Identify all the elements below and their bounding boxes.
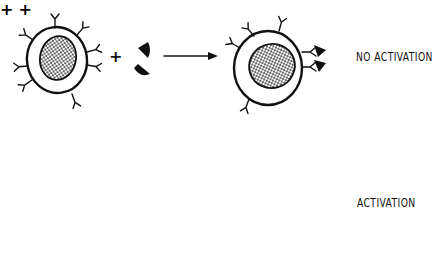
plus-sign: + — [109, 47, 122, 66]
antigen-fragments-icon — [134, 42, 150, 75]
activation-label: ACTIVATION — [357, 196, 416, 210]
arrow-icon — [164, 52, 218, 60]
no-activation-label: NO ACTIVATION — [356, 50, 433, 64]
cell-with-bound-antigens — [226, 16, 326, 113]
row-no-activation: + — [14, 14, 326, 114]
resting-cell — [14, 14, 102, 109]
immune-activation-diagram: + — [0, 0, 443, 265]
bound-antigen-icon — [302, 45, 326, 72]
